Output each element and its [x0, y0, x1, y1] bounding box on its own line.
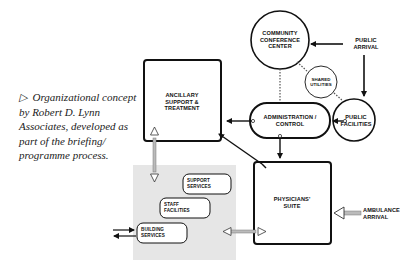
hollow-arrow-service-physicians — [223, 228, 266, 236]
caption-line: Associates, developed as — [19, 119, 139, 134]
community-conference-center-label: COMMUNITY CONFERENCE CENTER — [256, 30, 304, 50]
arrow-physicians-to-ancillary — [219, 134, 262, 164]
hollow-arrow-ambulance — [334, 207, 361, 219]
dotted-link-utilities-public — [334, 93, 343, 101]
hollow-arrow-ancillary-service — [151, 127, 159, 182]
connector-dot — [278, 134, 281, 137]
caption-line: part of the briefing/ — [19, 134, 139, 149]
caption-line: Organizational concept — [33, 91, 137, 103]
figure-caption: ▷ Organizational concept by Robert D. Ly… — [19, 90, 139, 163]
caption-marker: ▷ — [19, 91, 27, 103]
physicians-suite-label: PHYSICIANS' SUITE — [262, 196, 322, 209]
staff-facilities-label: STAFF FACILITIES — [164, 202, 206, 214]
administration-control-label: ADMINISTRATION / CONTROL — [252, 114, 328, 127]
caption-line: by Robert D. Lynn — [19, 105, 139, 120]
caption-line: programme process. — [19, 148, 139, 163]
support-services-label: SUPPORT SERVICES — [187, 178, 229, 190]
dotted-link-conference-utilities — [297, 62, 308, 72]
shared-utilities-label: SHARED UTILITIES — [306, 77, 336, 88]
public-arrival-label: PUBLIC ARRIVAL — [349, 37, 383, 50]
public-facilities-label: PUBLIC FACILITIES — [336, 114, 376, 127]
ambulance-arrival-label: AMBULANCE ARRIVAL — [363, 207, 413, 220]
ancillary-support-treatment-label: ANCILLARY SUPPORT & TREATMENT — [152, 92, 212, 112]
building-services-label: BUILDING SERVICES — [141, 227, 183, 239]
